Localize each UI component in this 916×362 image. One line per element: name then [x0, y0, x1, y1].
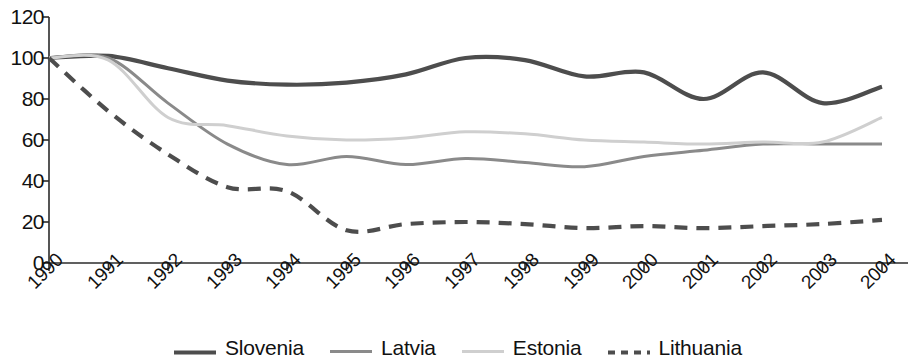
- legend-item-slovenia[interactable]: Slovenia: [174, 336, 304, 360]
- legend-label: Estonia: [513, 336, 582, 360]
- legend-label: Slovenia: [225, 336, 304, 360]
- series-line-slovenia: [49, 55, 882, 103]
- line-chart: 120100806040200 199019911992199319941995…: [0, 0, 916, 362]
- legend-item-lithuania[interactable]: Lithuania: [608, 336, 742, 360]
- y-tick-label: 20: [4, 211, 44, 232]
- legend-item-latvia[interactable]: Latvia: [330, 336, 436, 360]
- y-tick-label: 40: [4, 170, 44, 191]
- y-axis-tick-labels: 120100806040200: [0, 0, 44, 280]
- series-lines: [49, 55, 882, 232]
- chart-legend: SloveniaLatviaEstoniaLithuania: [0, 334, 916, 362]
- y-tick-label: 80: [4, 88, 44, 109]
- y-tick-label: 120: [4, 6, 44, 27]
- legend-label: Lithuania: [659, 336, 742, 360]
- legend-item-estonia[interactable]: Estonia: [462, 336, 582, 360]
- y-tick-label: 60: [4, 129, 44, 150]
- legend-label: Latvia: [381, 336, 436, 360]
- x-axis-tick-labels: 1990199119921993199419951996199719981999…: [0, 264, 916, 334]
- y-tick-label: 100: [4, 47, 44, 68]
